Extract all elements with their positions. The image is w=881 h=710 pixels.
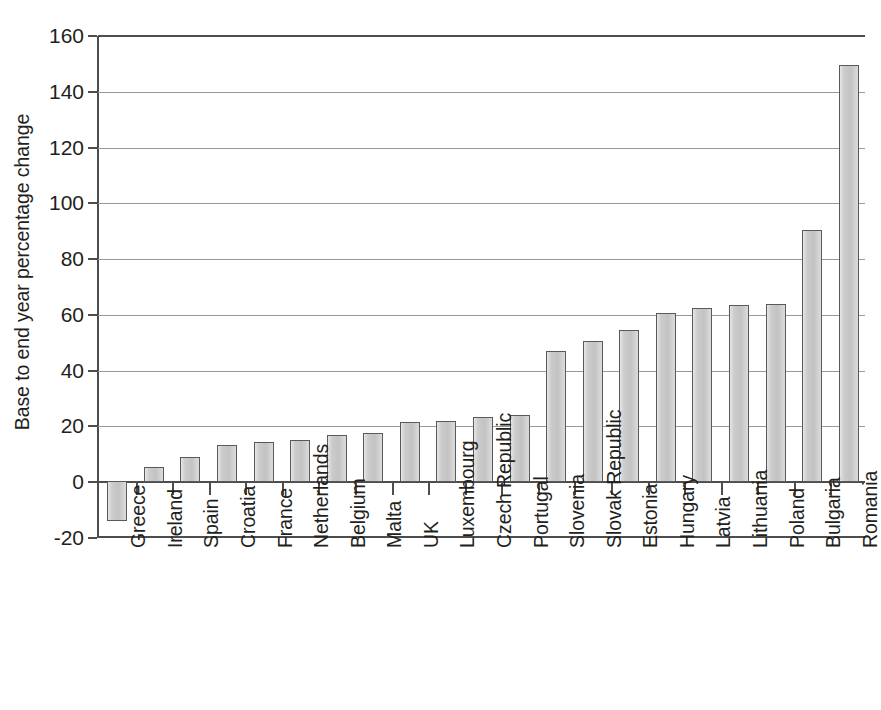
y-axis-tick [88,481,97,483]
y-axis-tick [88,35,97,37]
bar [583,341,603,482]
gridline [98,35,865,37]
y-axis-tick-label: 80 [14,247,84,271]
bar [436,421,456,482]
bar [363,433,383,482]
x-axis-tick-label: Malta [383,501,405,548]
x-axis-tick [721,482,723,495]
bar [217,445,237,483]
x-axis-tick [209,482,211,495]
x-axis-tick-label: Luxembourg [456,441,478,548]
x-axis-tick-label: Slovak Republic [603,410,625,548]
y-axis-line [97,36,99,538]
y-axis-tick [88,425,97,427]
x-axis-tick-label: Czech Republic [493,413,515,548]
y-axis-tick [88,258,97,260]
bar [766,304,786,482]
x-axis-tick-label: Portugal [530,476,552,548]
y-axis-tick-label: 20 [14,414,84,438]
gridline [98,315,865,316]
x-axis-tick-label: Poland [786,488,808,548]
x-axis-tick-label: Estonia [639,484,661,548]
x-axis-tick-label: Ireland [164,489,186,548]
bar [546,351,566,482]
x-axis-tick [428,482,430,495]
y-axis-tick-label: 120 [14,136,84,160]
plot-area: 160140120100806040200-20 [97,36,865,538]
x-axis-tick-label: Spain [200,499,222,548]
y-axis-tick [88,202,97,204]
x-axis-tick-label: Netherlands [310,444,332,548]
y-axis-tick-label: 0 [14,470,84,494]
x-axis-tick-label: Hungary [676,475,698,548]
x-axis-tick-label: UK [420,521,442,548]
y-axis-tick [88,314,97,316]
gridline [98,203,865,204]
y-axis-tick [88,147,97,149]
gridline [98,148,865,149]
gridline [98,92,865,93]
bar [802,230,822,482]
x-axis-labels: GreeceIrelandSpainCroatiaFranceNetherlan… [97,548,865,708]
y-axis-tick-label: 140 [14,80,84,104]
y-axis-tick-label: 160 [14,24,84,48]
bar [729,305,749,482]
x-axis-tick-label: Croatia [237,486,259,548]
x-axis-tick-label: France [274,488,296,548]
x-axis-tick-label: Bulgaria [822,477,844,548]
y-axis-tick [88,370,97,372]
y-axis-tick-label: 100 [14,191,84,215]
y-axis-tick-label: 60 [14,303,84,327]
bar [180,457,200,482]
gridline [98,371,865,372]
y-axis-tick-label: -20 [14,526,84,550]
x-axis-tick-label: Lithuania [749,470,771,548]
bar [400,422,420,482]
bar [839,65,859,482]
x-axis-tick-label: Slovenia [566,474,588,548]
bar [144,467,164,482]
gridline [98,259,865,260]
bar [656,313,676,482]
x-axis-tick-label: Romania [859,471,881,548]
x-axis-tick-label: Belgium [347,478,369,548]
bar [107,481,127,521]
bar [254,442,274,482]
y-axis-tick-label: 40 [14,359,84,383]
x-axis-tick-label: Latvia [712,497,734,548]
x-axis-tick [392,482,394,495]
y-axis-tick [88,91,97,93]
x-axis-tick-label: Greece [127,485,149,548]
y-axis-tick [88,537,97,539]
bar [290,440,310,482]
bar [692,308,712,482]
